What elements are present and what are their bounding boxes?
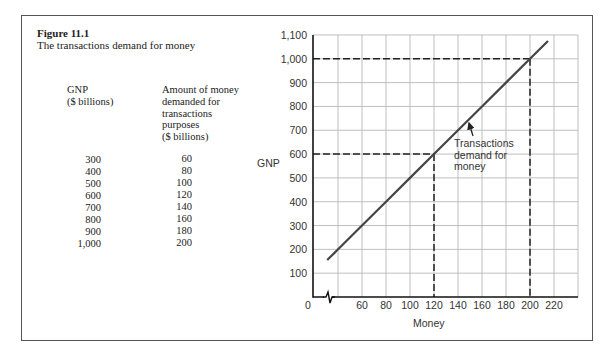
y-tick-label: 400 bbox=[289, 196, 307, 208]
chart-series bbox=[327, 41, 548, 260]
y-tick-label: 500 bbox=[289, 172, 307, 184]
transactions-demand-chart: 1002003004005006007008009001,0001,100060… bbox=[0, 0, 613, 358]
annotation-text: Transactions bbox=[454, 137, 514, 149]
y-tick-label: 600 bbox=[289, 148, 307, 160]
chart-grid bbox=[313, 35, 578, 297]
x-tick-label: 160 bbox=[473, 299, 491, 311]
annotation-text: money bbox=[454, 160, 486, 172]
chart-axes bbox=[313, 35, 578, 303]
x-tick-label: 200 bbox=[521, 299, 539, 311]
y-tick-label: 900 bbox=[289, 77, 307, 89]
x-tick-label: 100 bbox=[401, 299, 419, 311]
y-tick-label: 700 bbox=[289, 124, 307, 136]
x-tick-label: 80 bbox=[380, 299, 392, 311]
y-tick-label: 200 bbox=[289, 243, 307, 255]
y-tick-label: 1,000 bbox=[281, 53, 307, 65]
y-axis-title: GNP bbox=[257, 157, 280, 169]
x-tick-label: 180 bbox=[497, 299, 515, 311]
y-tick-label: 800 bbox=[289, 100, 307, 112]
x-tick-label: 60 bbox=[356, 299, 368, 311]
x-tick-label: 0 bbox=[305, 299, 311, 311]
annotation-text: demand for bbox=[454, 149, 508, 161]
x-axis-title: Money bbox=[413, 317, 445, 329]
y-tick-label: 100 bbox=[289, 267, 307, 279]
transactions-demand-line bbox=[327, 41, 548, 260]
y-tick-label: 1,100 bbox=[281, 29, 307, 41]
y-tick-label: 300 bbox=[289, 220, 307, 232]
x-tick-label: 220 bbox=[545, 299, 563, 311]
x-tick-label: 120 bbox=[425, 299, 443, 311]
x-tick-label: 140 bbox=[449, 299, 467, 311]
annotation-arrow-icon bbox=[469, 123, 473, 136]
